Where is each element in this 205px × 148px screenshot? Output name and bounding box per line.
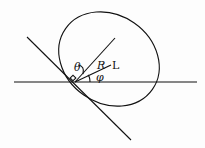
phi-arc: [88, 75, 90, 82]
L-label: L: [112, 60, 119, 71]
tangent-line: [27, 37, 131, 140]
R-label: R: [97, 60, 105, 71]
theta-label: θ: [74, 62, 81, 73]
diagram: θ R L φ: [0, 0, 205, 148]
phi-label: φ: [96, 72, 104, 83]
ellipse: [40, 0, 177, 125]
radius-line: [75, 38, 115, 82]
